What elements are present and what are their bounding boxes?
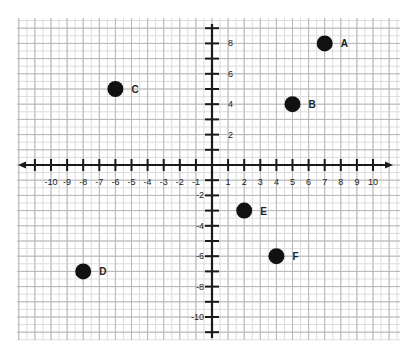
y-tick-label: 2 <box>228 130 233 140</box>
x-tick-label: -7 <box>95 177 103 187</box>
x-tick-label: 6 <box>306 177 311 187</box>
x-tick-label: -6 <box>111 177 119 187</box>
point-label: C <box>131 84 138 95</box>
y-tick-label: -2 <box>196 190 204 200</box>
point-label: D <box>99 266 106 277</box>
x-tick-label: -1 <box>192 177 200 187</box>
x-tick-label: -2 <box>176 177 184 187</box>
point-label: E <box>260 206 267 217</box>
y-tick-label: 4 <box>228 99 233 109</box>
x-tick-label: 2 <box>242 177 247 187</box>
x-tick-label: -5 <box>127 177 135 187</box>
coordinate-plane: -10-9-8-7-6-5-4-3-2-1123456789108642-2-4… <box>0 0 412 351</box>
y-tick-label: -6 <box>196 251 204 261</box>
x-tick-label: -4 <box>144 177 152 187</box>
data-point-f: F <box>268 248 298 264</box>
point-label: B <box>309 99 316 110</box>
x-tick-label: 7 <box>322 177 327 187</box>
x-tick-label: 4 <box>274 177 279 187</box>
x-tick-label: 9 <box>354 177 359 187</box>
x-tick-label: 5 <box>290 177 295 187</box>
x-tick-label: 8 <box>338 177 343 187</box>
x-tick-label: 1 <box>226 177 231 187</box>
x-tick-label: -10 <box>44 177 57 187</box>
x-tick-label: 3 <box>258 177 263 187</box>
y-tick-label: 8 <box>228 38 233 48</box>
y-tick-label: -10 <box>191 312 204 322</box>
x-tick-label: -9 <box>63 177 71 187</box>
point-label: F <box>292 251 298 262</box>
x-tick-label: -8 <box>79 177 87 187</box>
point-label: A <box>341 38 348 49</box>
data-point-e: E <box>236 203 267 219</box>
y-tick-label: 6 <box>228 69 233 79</box>
x-tick-label: -3 <box>160 177 168 187</box>
x-tick-label: 10 <box>368 177 378 187</box>
axes <box>18 24 393 338</box>
y-tick-label: -4 <box>196 221 204 231</box>
y-tick-label: -8 <box>196 282 204 292</box>
